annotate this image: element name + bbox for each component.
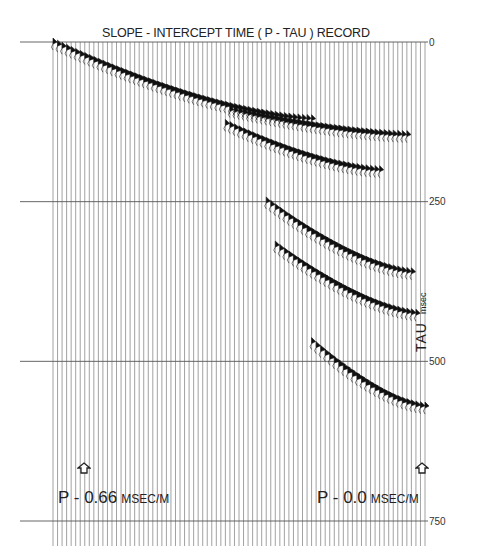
- reflection-events: [52, 38, 430, 414]
- tick-750: 750: [429, 516, 446, 527]
- seismic-plot: [0, 0, 477, 558]
- left-p-marker-icon: [77, 462, 91, 474]
- p-right-value: P - 0.0: [317, 488, 367, 507]
- p-right-unit: MSEC/M: [371, 492, 419, 506]
- tick-500: 500: [429, 356, 446, 367]
- p-left-unit: MSEC/M: [121, 492, 169, 506]
- tick-0: 0: [429, 37, 435, 48]
- tick-250: 250: [429, 196, 446, 207]
- p-left-value: P - 0.66: [58, 488, 117, 507]
- y-axis-label: TAU: [413, 322, 429, 352]
- trace-lines: [53, 42, 425, 546]
- chart-title: SLOPE - INTERCEPT TIME ( P - TAU ) RECOR…: [102, 26, 370, 40]
- p-left-label: P - 0.66MSEC/M: [58, 488, 169, 508]
- timing-lines: [20, 42, 428, 521]
- p-right-label: P - 0.0MSEC/M: [317, 488, 419, 508]
- right-p-marker-icon: [415, 462, 429, 474]
- y-axis-unit: msec: [418, 293, 428, 315]
- y-axis-title: TAUmsec: [412, 293, 430, 352]
